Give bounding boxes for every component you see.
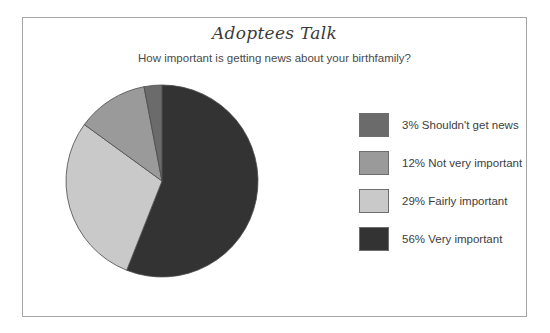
pie-slice-group <box>66 85 258 277</box>
legend-item-label: 12% Not very important <box>402 157 522 169</box>
chart-title: Adoptees Talk <box>23 23 526 43</box>
pie-chart <box>37 66 287 296</box>
legend-item: 12% Not very important <box>359 144 524 182</box>
pie-chart-svg <box>37 66 287 296</box>
legend-item: 29% Fairly important <box>359 182 524 220</box>
legend-item: 3% Shouldn't get news <box>359 106 524 144</box>
chart-subtitle: How important is getting news about your… <box>23 52 526 64</box>
legend-item-label: 56% Very important <box>402 233 502 245</box>
legend-item-label: 29% Fairly important <box>402 195 507 207</box>
legend-item-label: 3% Shouldn't get news <box>402 119 519 131</box>
chart-legend: 3% Shouldn't get news12% Not very import… <box>359 106 524 258</box>
legend-color-swatch <box>359 227 389 251</box>
legend-color-swatch <box>359 113 389 137</box>
legend-color-swatch <box>359 151 389 175</box>
legend-color-swatch <box>359 189 389 213</box>
legend-item: 56% Very important <box>359 220 524 258</box>
chart-frame: Adoptees Talk How important is getting n… <box>22 17 527 317</box>
